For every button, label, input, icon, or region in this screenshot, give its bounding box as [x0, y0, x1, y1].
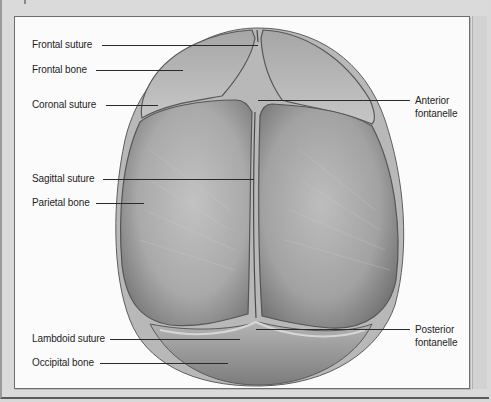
leader-frontal-bone: [96, 70, 183, 71]
leader-coronal-suture: [106, 105, 158, 106]
parietal-bone-left: [121, 100, 252, 326]
label-occipital-bone: Occipital bone: [32, 356, 94, 369]
label-anterior-fontanelle-line1: Anterior: [415, 94, 449, 107]
leader-parietal-bone: [96, 203, 144, 204]
label-anterior-fontanelle-line2: fontanelle: [415, 107, 457, 120]
leader-lambdoid-suture: [110, 339, 240, 340]
label-frontal-suture: Frontal suture: [32, 38, 92, 51]
leader-frontal-suture: [102, 45, 258, 46]
label-frontal-bone: Frontal bone: [32, 63, 87, 76]
label-sagittal-suture: Sagittal suture: [32, 172, 94, 185]
leader-sagittal-suture: [103, 179, 254, 180]
parietal-bone-right: [259, 104, 398, 328]
label-coronal-suture: Coronal suture: [32, 98, 96, 111]
label-parietal-bone: Parietal bone: [32, 196, 90, 209]
occipital-bone: [150, 322, 372, 385]
leader-posterior-fontanelle: [256, 329, 410, 330]
leader-anterior-fontanelle: [258, 100, 410, 101]
label-posterior-fontanelle-line1: Posterior: [415, 323, 454, 336]
leader-occipital-bone: [100, 363, 228, 364]
label-posterior-fontanelle-line2: fontanelle: [415, 336, 457, 349]
label-lambdoid-suture: Lambdoid suture: [32, 332, 105, 345]
